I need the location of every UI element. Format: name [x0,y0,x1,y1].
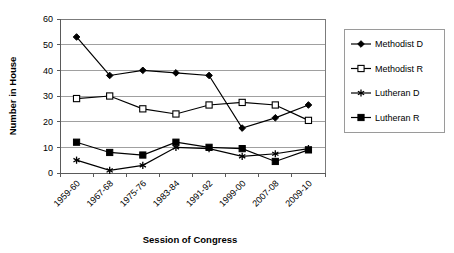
y-axis-title: Number in House [7,57,18,136]
data-point [305,147,311,153]
data-point [140,106,146,112]
data-point [206,144,212,150]
data-point [239,99,245,105]
legend-label: Lutheran R [375,113,420,123]
legend-marker [358,114,364,120]
data-point [173,111,179,117]
y-tick-label: 30 [43,91,53,101]
legend-label: Lutheran D [375,88,420,98]
chart-svg: 0102030405060 1959-601967-681975-761983-… [0,0,454,253]
x-axis-title: Session of Congress [143,234,238,245]
data-point [239,146,245,152]
line-chart: 0102030405060 1959-601967-681975-761983-… [0,0,454,253]
data-point [107,93,113,99]
data-point [305,117,311,123]
data-point [272,158,278,164]
data-point [140,152,146,158]
data-point [173,139,179,145]
data-point [73,95,79,101]
y-tick-label: 60 [43,14,53,24]
legend: Methodist DMethodist RLutheran DLutheran… [344,29,444,132]
data-point [73,139,79,145]
data-point [272,102,278,108]
y-tick-label: 50 [43,40,53,50]
data-point [107,149,113,155]
legend-label: Methodist D [375,39,424,49]
y-tick-label: 0 [48,168,53,178]
legend-label: Methodist R [375,64,424,74]
y-tick-label: 10 [43,143,53,153]
y-tick-label: 20 [43,117,53,127]
y-tick-label: 40 [43,66,53,76]
data-point [206,102,212,108]
legend-marker [358,65,364,71]
